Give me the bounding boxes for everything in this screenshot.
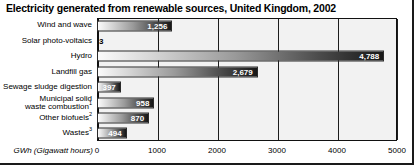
bar[interactable]: 2,679	[97, 66, 258, 77]
bar-track: 2,679	[97, 66, 397, 77]
bar-track: 494	[97, 128, 397, 139]
x-tick-2000: 2000	[208, 146, 226, 155]
bar-row: Landfill gas2,679	[0, 64, 414, 79]
bar-value-label: 494	[108, 129, 125, 138]
category-label: Wastes3	[0, 129, 95, 138]
bar[interactable]: 397	[97, 82, 121, 93]
bar-row: Sewage sludge digestion397	[0, 80, 414, 95]
category-label: Other biofuels2	[0, 114, 95, 123]
x-tick-0: 0	[95, 146, 99, 155]
bar-row: Solar photo-voltaics3	[0, 33, 414, 48]
footnote-marker: 2	[89, 111, 92, 117]
category-label: Landfill gas	[0, 68, 95, 77]
bar-track: 3	[97, 36, 397, 47]
footnote-marker: 3	[89, 126, 92, 132]
bar-row: Hydro4,788	[0, 49, 414, 64]
chart-title: Electricity generated from renewable sou…	[6, 2, 336, 14]
bar-value-label: 2,679	[233, 67, 257, 76]
bar-track: 1,256	[97, 20, 397, 31]
category-label: Wind and wave	[0, 21, 95, 30]
bar-row: Wind and wave1,256	[0, 18, 414, 33]
bar-value-label: 870	[131, 113, 148, 122]
bar-value-label: 958	[136, 98, 153, 107]
bar-track: 4,788	[97, 51, 397, 62]
bar[interactable]: 4,788	[97, 51, 384, 62]
x-tick-4000: 4000	[328, 146, 346, 155]
category-label: Municipal solidwaste combustion1	[0, 95, 95, 110]
bar[interactable]: 870	[97, 112, 149, 123]
x-axis-tick-labels: 010002000300040005000	[97, 146, 397, 158]
category-label: Sewage sludge digestion	[0, 83, 95, 92]
bar-value-label: 3	[97, 37, 103, 46]
bar[interactable]: 3	[97, 36, 98, 47]
bar-value-label: 4,788	[359, 52, 383, 61]
x-tick-3000: 3000	[268, 146, 286, 155]
x-axis-unit-label: GWh (Gigawatt hours)	[0, 146, 93, 155]
bar-value-label: 397	[102, 83, 119, 92]
bar-track: 397	[97, 82, 397, 93]
bar-row: Other biofuels2870	[0, 110, 414, 125]
bar-row: Wastes3494	[0, 126, 414, 141]
bar-track: 870	[97, 112, 397, 123]
bar-row: Municipal solidwaste combustion1958	[0, 95, 414, 110]
chart-figure: Electricity generated from renewable sou…	[0, 0, 414, 165]
bar[interactable]: 958	[97, 97, 154, 108]
x-tick-1000: 1000	[148, 146, 166, 155]
category-label: Hydro	[0, 52, 95, 61]
bar[interactable]: 494	[97, 128, 127, 139]
bar-track: 958	[97, 97, 397, 108]
footnote-marker: 1	[89, 100, 92, 106]
bar[interactable]: 1,256	[97, 20, 172, 31]
bar-value-label: 1,256	[147, 21, 171, 30]
category-label: Solar photo-voltaics	[0, 37, 95, 46]
bar-rows: Wind and wave1,256Solar photo-voltaics3H…	[0, 18, 414, 141]
x-tick-5000: 5000	[388, 146, 406, 155]
